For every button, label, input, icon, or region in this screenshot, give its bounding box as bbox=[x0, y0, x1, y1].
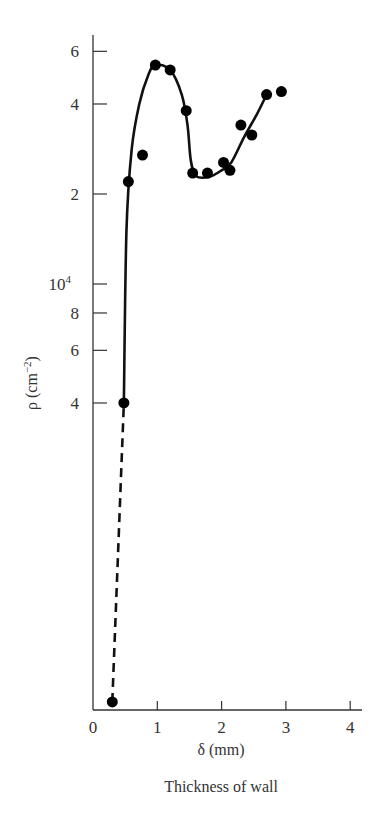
curves bbox=[112, 65, 266, 702]
data-point bbox=[118, 397, 129, 408]
data-point bbox=[165, 64, 176, 75]
y-tick-label: 6 bbox=[71, 341, 80, 360]
fitted-curve bbox=[124, 65, 267, 403]
data-point bbox=[187, 168, 198, 179]
data-point bbox=[137, 150, 148, 161]
data-point bbox=[224, 165, 235, 176]
svg-text:ρ (cm−2): ρ (cm−2) bbox=[21, 356, 41, 410]
x-tick-label: 0 bbox=[89, 718, 98, 737]
data-point bbox=[150, 60, 161, 71]
chart: 01234468104246 δ (mm) Thickness of wall … bbox=[0, 0, 380, 817]
data-point bbox=[246, 130, 257, 141]
data-point bbox=[235, 120, 246, 131]
y-axis-title: ρ (cm−2) bbox=[21, 356, 41, 410]
chart-caption: Thickness of wall bbox=[164, 778, 278, 795]
y-tick-label: 4 bbox=[71, 394, 80, 413]
x-tick-label: 3 bbox=[282, 718, 291, 737]
data-point bbox=[202, 168, 213, 179]
data-point bbox=[276, 86, 287, 97]
y-tick-label: 6 bbox=[71, 42, 80, 61]
data-point bbox=[123, 176, 134, 187]
y-tick-label: 8 bbox=[71, 304, 80, 323]
y-axis-title-exponent: −2 bbox=[21, 361, 33, 373]
y-tick-label: 4 bbox=[71, 95, 80, 114]
y-axis-title-close: ) bbox=[23, 356, 41, 361]
data-point bbox=[181, 105, 192, 116]
extrapolation-dashed-line bbox=[112, 403, 124, 702]
x-tick-label: 4 bbox=[346, 718, 355, 737]
data-points bbox=[107, 60, 287, 708]
data-point bbox=[261, 89, 272, 100]
tick-labels: 01234468104246 bbox=[49, 42, 355, 737]
x-tick-label: 1 bbox=[153, 718, 162, 737]
y-axis-title-main: ρ (cm bbox=[23, 373, 41, 410]
y-tick-label: 104 bbox=[49, 273, 72, 294]
data-point bbox=[107, 696, 118, 707]
y-tick-label: 2 bbox=[71, 185, 80, 204]
x-tick-label: 2 bbox=[217, 718, 226, 737]
x-axis-title: δ (mm) bbox=[197, 741, 244, 759]
